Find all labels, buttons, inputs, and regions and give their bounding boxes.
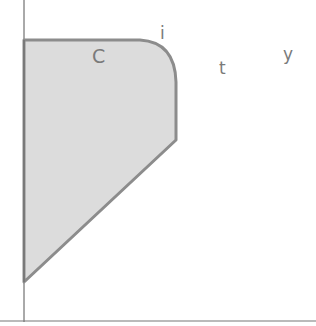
- diagram-canvas: [0, 0, 316, 326]
- point-label-i: i: [160, 25, 165, 42]
- region-label-c: C: [92, 47, 105, 66]
- point-label-y: y: [283, 46, 293, 63]
- convex-region-c: [24, 40, 176, 282]
- point-label-t: t: [219, 60, 226, 77]
